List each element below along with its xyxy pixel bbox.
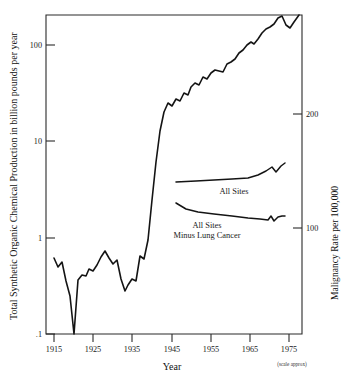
y-axis-title: Total Synthetic Organic Chemical Product… <box>8 32 19 320</box>
xtick-label-1945: 1945 <box>164 345 180 354</box>
chart-svg: 100 10 1 .1 200 100 1915 1925 1935 1945 … <box>0 0 347 383</box>
ytick-label-1: 1 <box>38 234 42 243</box>
xtick-label-1955: 1955 <box>203 345 219 354</box>
all-sites-label: All Sites <box>219 187 248 196</box>
y2tick-label-200: 200 <box>306 110 318 119</box>
x-axis-title: Year <box>163 361 182 372</box>
scale-approx-note: (scale approx) <box>277 361 307 368</box>
chart-background <box>0 0 347 383</box>
all-sites-minus-lung-label-line1: All Sites <box>192 221 221 230</box>
ytick-label-100: 100 <box>30 41 42 50</box>
xtick-label-1925: 1925 <box>85 345 101 354</box>
all-sites-minus-lung-label-line2: Minus Lung Cancer <box>174 231 241 240</box>
xtick-label-1965: 1965 <box>242 345 258 354</box>
xtick-label-1915: 1915 <box>46 345 62 354</box>
ytick-label-0-1: .1 <box>36 330 42 339</box>
y2tick-label-100: 100 <box>306 224 318 233</box>
y2-axis-title: Malignancy Rate per 100,000 <box>329 186 340 300</box>
chart-figure: 100 10 1 .1 200 100 1915 1925 1935 1945 … <box>0 0 347 383</box>
xtick-label-1935: 1935 <box>124 345 140 354</box>
xtick-label-1975: 1975 <box>281 345 297 354</box>
ytick-label-10: 10 <box>34 137 42 146</box>
